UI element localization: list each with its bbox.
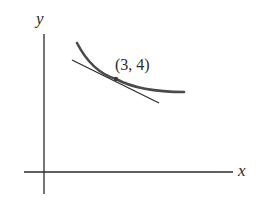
point-label: (3, 4) bbox=[115, 56, 150, 74]
x-axis-label: x bbox=[238, 161, 246, 181]
tangent-line-diagram: y x (3, 4) bbox=[0, 0, 267, 203]
point-of-tangency bbox=[114, 77, 118, 81]
y-axis-label: y bbox=[36, 9, 44, 29]
diagram-canvas bbox=[0, 0, 267, 203]
